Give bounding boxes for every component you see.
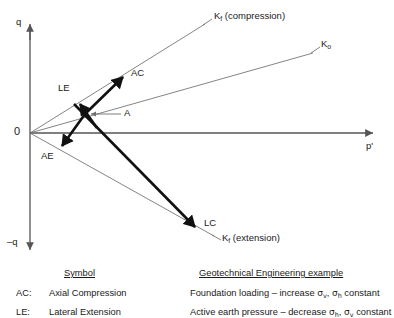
envelope-label-kf-compression: Kf (compression) xyxy=(214,11,285,22)
envelope-label-kf-extension: Kf (extension) xyxy=(222,233,280,244)
axis-label-p-prime: p' xyxy=(366,141,373,151)
stress-paths-group xyxy=(62,77,195,227)
origin-label: 0 xyxy=(14,126,20,137)
path-lc-arrow xyxy=(74,104,195,227)
legend-row-0-symbol: Axial Compression xyxy=(49,288,127,298)
kf-extension-suffix: (extension) xyxy=(230,232,280,243)
kf-compression-leader xyxy=(203,19,212,25)
path-label-le: LE xyxy=(58,83,70,93)
path-label-ae: AE xyxy=(41,151,54,161)
legend-row-1-key: LE: xyxy=(16,307,30,317)
legend-row-0-example-post: constant xyxy=(342,288,380,298)
legend-row-0-example: Foundation loading – increase σv, σh con… xyxy=(190,288,379,300)
legend-row-1-example: Active earth pressure – decrease σh, σv … xyxy=(190,307,391,318)
envelope-label-k0: Ko xyxy=(321,39,331,50)
legend-row-0-example-pre: Foundation loading – increase xyxy=(190,288,317,298)
k0-line xyxy=(30,53,313,133)
axis-label-q: q xyxy=(16,17,21,27)
k0-subscript: o xyxy=(327,43,331,50)
axes-group xyxy=(30,24,373,250)
legend-row-1-symbol: Lateral Extension xyxy=(49,307,121,317)
legend-header-symbol: Symbol xyxy=(64,268,95,278)
kf-compression-line xyxy=(30,24,205,133)
legend-row-0-key: AC: xyxy=(16,288,32,298)
path-label-lc: LC xyxy=(204,218,216,228)
legend-header-example: Geotechnical Engineering example xyxy=(199,268,343,278)
axis-label-negative-q: –q xyxy=(7,237,18,247)
kf-extension-leader xyxy=(212,235,221,240)
legend-table: Symbol Geotechnical Engineering example … xyxy=(0,258,394,318)
k0-leader xyxy=(311,47,320,53)
path-label-ac: AC xyxy=(131,68,144,78)
point-label-a: A xyxy=(124,108,130,118)
kf-extension-line xyxy=(30,133,214,236)
kf-compression-suffix: (compression) xyxy=(222,10,285,21)
path-ae-arrow xyxy=(62,114,85,146)
legend-row-1-example-pre: Active earth pressure – decrease xyxy=(190,307,329,317)
legend-row-1-example-post: constant xyxy=(354,307,392,317)
